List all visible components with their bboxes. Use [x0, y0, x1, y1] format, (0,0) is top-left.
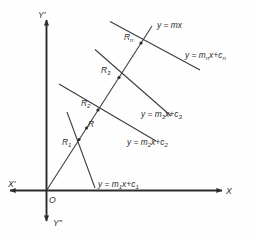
- y-negative-axis-label: Y": [53, 218, 63, 228]
- diagram-canvas: X X' Y' Y" O: [0, 0, 258, 235]
- eq-m-prefix: y = m: [156, 20, 178, 30]
- line-y-equals-m3x-plus-c3: [95, 50, 171, 117]
- y-axis-label: Y': [38, 10, 46, 20]
- point-dot-Rn: [139, 41, 142, 44]
- eq-m3-csub: 3: [178, 113, 182, 120]
- eq-m3-prefix: y = m: [140, 109, 162, 119]
- point-label-R1-sub: 1: [68, 141, 71, 148]
- point-dot-R1: [78, 138, 81, 141]
- point-labels-group: R1 R R2 R3 Rn: [62, 32, 134, 148]
- equation-labels-group: y = mx y = mnx+cn y = m3x+c3 y = m2x+c2 …: [97, 20, 226, 190]
- point-label-R2: R2: [81, 98, 91, 109]
- eq-mn-prefix: y = m: [184, 50, 206, 60]
- point-label-R3: R3: [101, 65, 111, 76]
- point-label-Rn-sub: n: [130, 36, 134, 43]
- origin-label: O: [49, 195, 56, 205]
- point-label-R-base: R: [88, 119, 94, 129]
- equation-label-y-equals-mx: y = mx: [156, 20, 183, 30]
- equation-label-y-equals-m3x-plus-c3: y = m3x+c3: [140, 109, 182, 120]
- point-label-R2-sub: 2: [86, 102, 91, 109]
- point-label-R: R: [88, 119, 94, 129]
- x-axis-label: X: [225, 186, 232, 196]
- lines-group: [47, 22, 201, 191]
- coordinate-diagram: X X' Y' Y" O: [0, 0, 258, 235]
- equation-label-y-equals-m2x-plus-c2: y = m2x+c2: [126, 137, 168, 148]
- eq-mn-csub: n: [222, 54, 226, 61]
- eq-m-var: x: [177, 20, 183, 30]
- eq-m1-csub: 1: [135, 183, 138, 190]
- eq-m2-csub: 2: [163, 141, 168, 148]
- x-negative-axis-label: X': [7, 179, 16, 189]
- eq-m2-prefix: y = m: [126, 137, 148, 147]
- equation-label-y-equals-m1x-plus-c1: y = m1x+c1: [97, 179, 139, 190]
- point-label-R3-sub: 3: [107, 69, 111, 76]
- point-dot-R2: [96, 108, 99, 111]
- line-y-equals-mnx-plus-cn: [110, 22, 200, 71]
- eq-m1-prefix: y = m: [97, 179, 119, 189]
- point-dot-R3: [117, 76, 120, 79]
- point-label-R1: R1: [62, 137, 71, 148]
- equation-label-y-equals-mnx-plus-cn: y = mnx+cn: [184, 50, 226, 61]
